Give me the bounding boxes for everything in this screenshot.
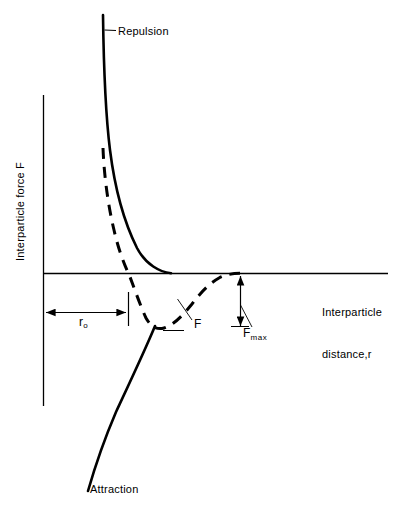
plot-canvas — [0, 0, 403, 526]
fmax-label-subscript: max — [251, 333, 268, 342]
fmax-label-base: F — [243, 326, 251, 340]
fmax-leader-line — [241, 305, 253, 327]
attraction-curve — [88, 326, 155, 491]
force-distance-diagram: Repulsion Attraction Interparticle force… — [0, 0, 403, 526]
y-axis-label: Interparticle force F — [14, 157, 27, 267]
repulsion-label: Repulsion — [118, 25, 169, 38]
x-axis-label-line2: distance,r — [322, 347, 382, 361]
r0-label-subscript: o — [83, 321, 88, 330]
x-axis-label: Interparticle distance,r — [322, 277, 382, 389]
net-force-label: F — [194, 318, 202, 331]
fmax-label: Fmax — [243, 327, 267, 341]
repulsion-curve — [103, 15, 171, 273]
repulsion-leader-line — [105, 30, 117, 31]
r0-label: ro — [79, 316, 88, 330]
x-axis-label-line1: Interparticle — [322, 305, 382, 319]
net-force-curve — [103, 148, 240, 329]
attraction-label: Attraction — [90, 483, 138, 496]
